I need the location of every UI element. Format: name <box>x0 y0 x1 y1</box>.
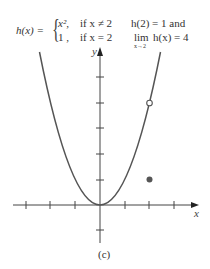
point-filled-dot <box>147 177 153 183</box>
x-axis-label: x <box>193 207 199 219</box>
figure-caption: (c) <box>98 248 110 260</box>
chart-plot: y x <box>0 0 210 269</box>
y-axis-arrow-icon <box>97 47 103 56</box>
hole-open-circle <box>147 100 153 106</box>
y-axis-label: y <box>91 45 97 57</box>
